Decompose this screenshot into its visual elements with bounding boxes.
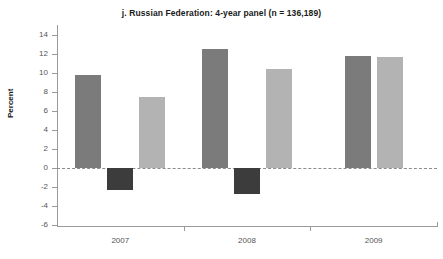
y-axis-label: Percent xyxy=(6,89,15,118)
x-axis-tick xyxy=(310,226,311,231)
y-axis-tick xyxy=(52,35,58,36)
y-axis-tick xyxy=(52,73,58,74)
bar xyxy=(234,168,260,194)
x-axis-tick-label: 2008 xyxy=(217,236,277,245)
y-axis-tick-label: 0 xyxy=(18,164,48,172)
bar xyxy=(139,97,165,168)
bar xyxy=(345,56,371,168)
y-axis-tick-label: 8 xyxy=(18,88,48,96)
bar xyxy=(266,69,292,168)
y-axis-tick-label: 12 xyxy=(18,50,48,58)
chart-container: j. Russian Federation: 4-year panel (n =… xyxy=(0,0,443,259)
y-axis-tick xyxy=(52,187,58,188)
y-axis-tick xyxy=(52,111,58,112)
x-axis-line xyxy=(57,226,437,227)
y-axis-tick-label: 2 xyxy=(18,145,48,153)
chart-title: j. Russian Federation: 4-year panel (n =… xyxy=(0,8,443,18)
y-axis-tick xyxy=(52,92,58,93)
x-axis-tick xyxy=(184,226,185,231)
bar xyxy=(75,75,101,168)
y-axis-tick-label: -2 xyxy=(18,183,48,191)
y-axis-tick-label: 4 xyxy=(18,126,48,134)
y-axis-tick xyxy=(52,54,58,55)
bar xyxy=(377,57,403,168)
y-axis-tick-label: -4 xyxy=(18,202,48,210)
y-axis-tick-label: 10 xyxy=(18,69,48,77)
bar xyxy=(202,49,228,168)
y-axis-tick-label: -6 xyxy=(18,221,48,229)
y-axis-tick xyxy=(52,130,58,131)
y-axis-tick xyxy=(52,149,58,150)
y-axis-tick xyxy=(52,206,58,207)
x-axis-end-cap xyxy=(437,222,438,227)
bar xyxy=(107,168,133,190)
y-axis-tick-label: 6 xyxy=(18,107,48,115)
x-axis-tick-label: 2009 xyxy=(344,236,404,245)
y-axis-tick-label: 14 xyxy=(18,31,48,39)
y-axis-line xyxy=(57,25,58,226)
y-axis-tick xyxy=(52,225,58,226)
x-axis-tick-label: 2007 xyxy=(90,236,150,245)
